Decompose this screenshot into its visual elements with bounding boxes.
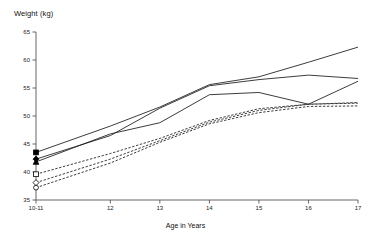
series-line-2 <box>36 75 358 159</box>
x-tick-label: 10-11 <box>18 205 54 211</box>
marker-open-diamond <box>33 180 39 186</box>
x-tick-label: 15 <box>241 205 277 211</box>
x-tick-label: 13 <box>142 205 178 211</box>
y-tick-label: 55 <box>10 85 30 91</box>
series-line-5 <box>36 103 358 183</box>
x-axis-title: Age in Years <box>0 222 371 229</box>
x-tick-label: 17 <box>340 205 371 211</box>
marker-open-circle <box>34 185 39 190</box>
series-line-4 <box>36 103 358 175</box>
series-line-1 <box>36 47 358 152</box>
y-tick-label: 60 <box>10 57 30 63</box>
x-tick-label: 12 <box>92 205 128 211</box>
y-tick-label: 40 <box>10 169 30 175</box>
y-tick-label: 50 <box>10 113 30 119</box>
y-tick-label: 45 <box>10 141 30 147</box>
x-tick-label: 14 <box>191 205 227 211</box>
weight-by-age-chart: Weight (kg) 3540455055606510-11121314151… <box>0 0 371 243</box>
series-line-3 <box>36 81 358 162</box>
series-line-6 <box>36 106 358 188</box>
y-tick-label: 65 <box>10 29 30 35</box>
y-tick-label: 35 <box>10 197 30 203</box>
marker-open-square <box>34 172 39 177</box>
x-tick-label: 16 <box>290 205 326 211</box>
marker-filled-square <box>34 150 39 155</box>
